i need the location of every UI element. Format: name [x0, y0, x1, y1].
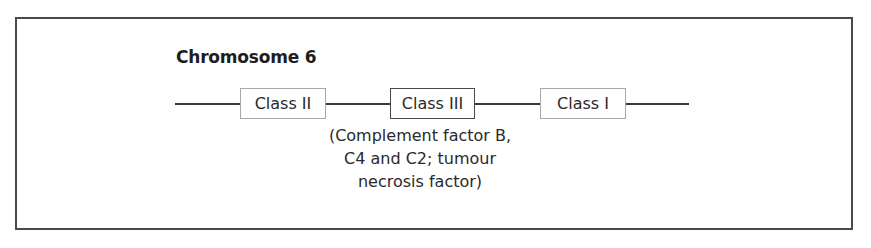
class-i-label: Class I	[557, 94, 609, 113]
class-iii-label: Class III	[402, 94, 463, 113]
chromosome-line-right	[625, 103, 689, 105]
chromosome-line-mid-1	[325, 103, 391, 105]
class-ii-label: Class II	[255, 94, 312, 113]
class-ii-region: Class II	[240, 88, 326, 119]
annotation-line-2: C4 and C2; tumour	[300, 147, 540, 170]
class-i-region: Class I	[540, 88, 626, 119]
chromosome-line-mid-2	[474, 103, 541, 105]
chromosome-title: Chromosome 6	[176, 47, 316, 67]
class-iii-region: Class III	[390, 88, 475, 119]
class-iii-annotation: (Complement factor B, C4 and C2; tumour …	[300, 124, 540, 193]
chromosome-line-left	[175, 103, 241, 105]
annotation-line-1: (Complement factor B,	[300, 124, 540, 147]
annotation-line-3: necrosis factor)	[300, 170, 540, 193]
